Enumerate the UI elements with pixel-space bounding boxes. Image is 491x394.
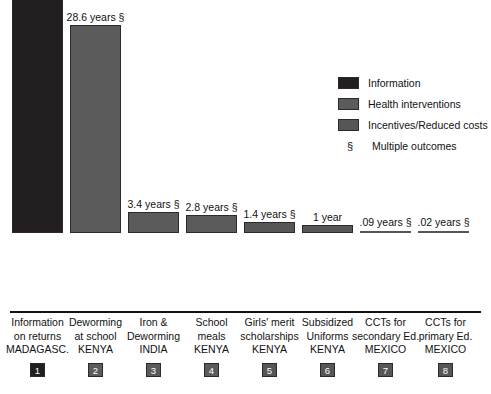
legend-item-multiple-outcomes: § Multiple outcomes (338, 137, 488, 158)
bar-chart: 40 years 28.6 years § 3.4 years § 2.8 ye… (0, 0, 491, 394)
bar-value-label-7: .09 years § (360, 216, 412, 231)
bar-4[interactable]: 2.8 years § (186, 215, 237, 233)
legend-item-information: Information (338, 74, 488, 95)
bar-6[interactable]: 1 year (302, 225, 353, 233)
bar-2[interactable]: 28.6 years § (70, 25, 121, 233)
legend-label: Multiple outcomes (372, 137, 457, 155)
bar-7[interactable]: .09 years § (360, 231, 411, 233)
legend-swatch-icon (338, 119, 359, 131)
x-label-8: CCTs for primary Ed. MEXICO 8 (408, 316, 483, 377)
legend-label: Health interventions (368, 95, 461, 113)
bar-value-label-8: .02 years § (418, 216, 470, 231)
bar-index-badge: 8 (438, 363, 453, 377)
bar-value-label-3: 3.4 years § (128, 198, 180, 213)
bar-index-badge: 3 (146, 363, 161, 377)
bar-5[interactable]: 1.4 years § (244, 222, 295, 233)
bar-index-badge: 1 (30, 363, 45, 377)
x-axis-labels: Information on returns MADAGASC. 1 Dewor… (0, 316, 491, 394)
bar-1[interactable]: 40 years (12, 0, 63, 233)
bar-index-badge: 4 (204, 363, 219, 377)
legend-swatch-icon (338, 77, 359, 89)
x-label-line: MEXICO (408, 343, 483, 357)
x-label-line: CCTs for (408, 316, 483, 330)
bar-value-label-6: 1 year (313, 211, 342, 226)
bar-index-badge: 5 (262, 363, 277, 377)
legend-item-health-interventions: Health interventions (338, 95, 488, 116)
bar-3[interactable]: 3.4 years § (128, 212, 179, 233)
bar-index-badge: 7 (378, 363, 393, 377)
legend-label: Incentives/Reduced costs (368, 116, 488, 134)
bar-8[interactable]: .02 years § (418, 231, 469, 233)
bar-value-label-5: 1.4 years § (244, 208, 296, 223)
x-axis-baseline (10, 311, 481, 313)
legend-swatch-icon (338, 98, 359, 110)
legend-item-incentives-reduced-costs: Incentives/Reduced costs (338, 116, 488, 137)
bar-index-badge: 6 (320, 363, 335, 377)
x-label-line: primary Ed. (408, 330, 483, 344)
section-symbol-icon: § (342, 137, 358, 155)
bar-index-badge: 2 (88, 363, 103, 377)
bar-value-label-2: 28.6 years § (67, 11, 125, 26)
bar-value-label-4: 2.8 years § (186, 201, 238, 216)
plot-area: 40 years 28.6 years § 3.4 years § 2.8 ye… (0, 0, 491, 316)
chart-legend: Information Health interventions Incenti… (338, 74, 488, 158)
legend-label: Information (368, 74, 421, 92)
